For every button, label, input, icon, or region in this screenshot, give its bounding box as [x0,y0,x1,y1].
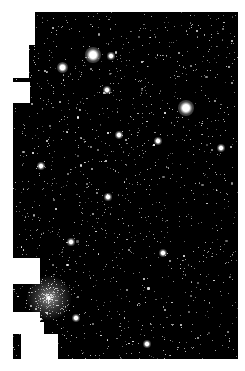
star [40,237,41,238]
star [117,295,118,296]
star [134,192,135,193]
star [214,100,216,102]
star [207,194,208,195]
star [108,346,109,347]
star [20,288,21,289]
star [61,280,62,281]
star [187,168,188,169]
cluster-star [63,306,64,307]
star [111,41,112,42]
star [219,155,220,156]
star [149,185,150,186]
star [43,188,44,189]
star [217,190,218,191]
cluster-star [38,289,39,290]
star [185,275,186,276]
star [37,15,38,16]
star [139,352,140,353]
star [185,105,186,106]
star [22,181,23,182]
star [137,182,138,183]
star [31,103,33,105]
star [109,311,110,312]
star [84,264,85,265]
star [140,172,141,173]
star [51,165,52,166]
star [209,289,210,290]
star [23,156,24,157]
star [171,302,173,304]
star [75,167,76,168]
star [82,98,83,99]
star [50,232,51,233]
star [68,260,69,261]
star [123,223,124,224]
star [207,252,208,253]
star [102,215,103,216]
star [198,223,199,224]
star [22,164,24,166]
star [131,147,133,149]
star [47,80,48,81]
star [114,252,115,253]
star [90,119,91,120]
star [35,135,36,136]
star [191,266,192,267]
star [236,141,237,142]
star [128,200,129,201]
star [195,338,196,339]
star [42,22,43,23]
star [191,190,192,191]
star [120,335,121,336]
star [235,302,236,303]
star [100,331,101,332]
cluster-star [51,284,52,285]
star [115,160,116,161]
star [116,281,117,282]
star [135,241,136,242]
star [48,83,49,84]
star [211,25,212,26]
star [151,16,152,17]
star [148,140,149,141]
star [118,172,119,173]
star [45,195,46,196]
star [191,27,192,28]
star [128,327,129,328]
star [172,325,173,326]
star [162,55,163,56]
star [212,228,213,229]
star [154,238,155,239]
star [47,20,48,21]
star [157,241,158,242]
star [236,317,237,318]
star [84,141,86,143]
star [204,35,205,36]
star [85,110,86,111]
star [231,76,232,77]
star [105,230,106,231]
star [150,189,151,190]
cluster-star [45,275,46,276]
star [44,161,45,162]
star [87,221,89,223]
star [35,308,37,310]
star [143,290,144,291]
cluster-star [26,303,27,304]
star [50,67,51,68]
star [203,261,204,262]
star [213,189,214,190]
star [201,90,202,91]
star [151,104,152,105]
star [37,113,38,114]
star [108,117,109,118]
star [206,144,208,146]
bright-star [178,100,193,115]
star [54,178,55,179]
star [99,355,100,356]
star [168,276,169,277]
star [158,257,159,258]
star [56,46,57,47]
star [110,92,112,94]
star [171,42,172,43]
